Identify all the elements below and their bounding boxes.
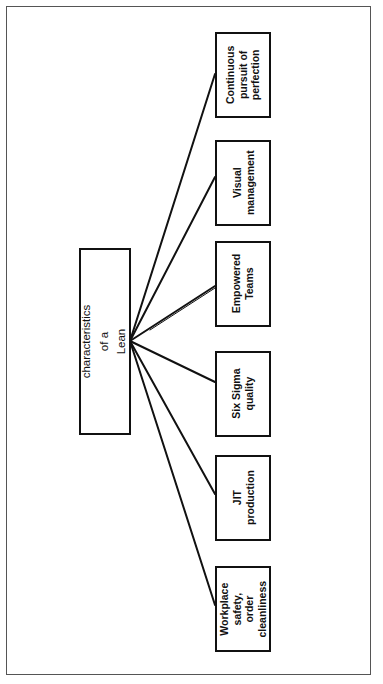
root-node: Six characteristics of a Lean Enterprise xyxy=(79,248,131,435)
node-six-sigma-quality: Six Sigma quality xyxy=(215,351,271,437)
node-label: JIT production xyxy=(230,471,255,526)
node-jit-production: JIT production xyxy=(215,455,271,541)
connector-continuous xyxy=(130,74,215,341)
node-empowered-teams: Empowered Teams xyxy=(215,241,271,327)
node-label: Visual management xyxy=(230,151,255,216)
connector-empowered xyxy=(130,286,215,341)
node-label: Continuous pursuit of perfection xyxy=(224,46,262,104)
root-label: Six characteristics of a Lean Enterprise xyxy=(79,305,131,379)
connector-empowered-double xyxy=(150,288,215,330)
connector-lines xyxy=(0,0,383,684)
node-label: Empowered Teams xyxy=(230,254,255,314)
node-label: Workplace safety, order cleanliness xyxy=(218,581,268,638)
node-label: Six Sigma quality xyxy=(230,368,255,420)
node-workplace-safety: Workplace safety, order cleanliness xyxy=(215,566,271,652)
node-continuous-pursuit: Continuous pursuit of perfection xyxy=(215,32,271,118)
connector-six-sigma xyxy=(130,341,215,382)
connector-visual xyxy=(130,177,215,341)
node-visual-management: Visual management xyxy=(215,140,271,226)
